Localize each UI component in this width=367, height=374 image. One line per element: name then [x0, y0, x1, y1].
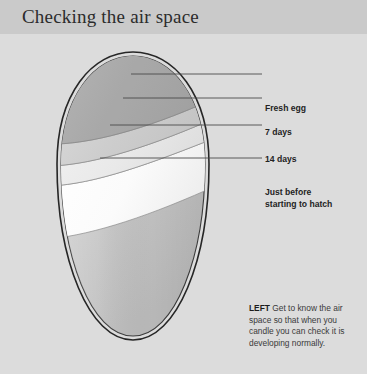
- header-band: Checking the air space: [0, 0, 367, 34]
- label-just-before-hatch: Just before starting to hatch: [265, 187, 332, 210]
- label-7-days: 7 days: [265, 127, 292, 139]
- figure-caption: LEFT Get to know the air space so that w…: [249, 303, 361, 349]
- caption-lead-in: LEFT: [249, 303, 270, 313]
- page-title: Checking the air space: [22, 4, 199, 30]
- page-root: Checking the air space: [0, 0, 367, 374]
- label-14-days: 14 days: [265, 154, 297, 166]
- label-fresh-egg: Fresh egg: [265, 103, 306, 115]
